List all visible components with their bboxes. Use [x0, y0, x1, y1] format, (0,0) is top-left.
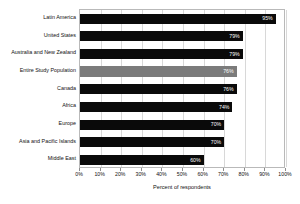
bar-value-label: 70% [211, 122, 224, 127]
bar-value-label: 79% [229, 34, 242, 39]
category-label: Europe [59, 115, 76, 133]
bar-row: 60% [80, 151, 284, 169]
x-tick-label: 70% [218, 172, 228, 177]
bar-row: 70% [80, 116, 284, 134]
x-axis: 0%10%20%30%40%50%60%70%80%90%100% [79, 168, 285, 180]
bar-value-label: 60% [190, 158, 203, 163]
x-tick-label: 100% [278, 172, 291, 177]
x-tick-label: 80% [239, 172, 249, 177]
bar: 70% [80, 137, 224, 147]
bar: 60% [80, 155, 204, 165]
x-tick-label: 60% [197, 172, 207, 177]
bar: 74% [80, 102, 232, 112]
bar-value-label: 79% [229, 52, 242, 57]
bar-rows: 95%79%79%76%76%74%70%70%60% [80, 10, 284, 167]
bar-row: 95% [80, 10, 284, 28]
x-tick-label: 90% [259, 172, 269, 177]
bar-row: 79% [80, 28, 284, 46]
x-axis-title: Percent of respondents [79, 185, 285, 191]
bar: 79% [80, 31, 243, 41]
bar-value-label: 95% [262, 16, 275, 21]
category-label: Asia and Pacific Islands [19, 133, 76, 151]
x-tick-label: 50% [177, 172, 187, 177]
category-axis-labels: Latin AmericaUnited StatesAustralia and … [0, 9, 76, 168]
bar: 95% [80, 14, 276, 24]
category-label: Middle East [48, 150, 76, 168]
bar-row: 70% [80, 134, 284, 152]
bar-value-label: 74% [219, 105, 232, 110]
plot-area: 95%79%79%76%76%74%70%70%60% [79, 9, 285, 168]
bar: 70% [80, 120, 224, 130]
bar: 76% [80, 84, 237, 94]
x-tick-label: 30% [136, 172, 146, 177]
bar-row: 76% [80, 63, 284, 81]
bar-value-label: 70% [211, 140, 224, 145]
bar-row: 74% [80, 98, 284, 116]
category-label: Canada [57, 80, 76, 98]
gridline [286, 10, 287, 167]
x-tick-label: 20% [115, 172, 125, 177]
bar-highlighted: 76% [80, 66, 237, 77]
bar-row: 79% [80, 45, 284, 63]
bar-value-label: 76% [223, 69, 236, 74]
category-label: Australia and New Zealand [11, 44, 76, 62]
category-label: Africa [62, 97, 76, 115]
x-tick-label: 10% [94, 172, 104, 177]
bar-row: 76% [80, 81, 284, 99]
x-tick-label: 40% [156, 172, 166, 177]
bar-chart: 95%79%79%76%76%74%70%70%60% Latin Americ… [0, 0, 300, 204]
category-label: Entire Study Population [20, 62, 76, 80]
bar-value-label: 76% [223, 87, 236, 92]
bar: 79% [80, 49, 243, 59]
category-label: Latin America [43, 9, 76, 27]
x-tick-label: 0% [75, 172, 83, 177]
category-label: United States [44, 27, 76, 45]
